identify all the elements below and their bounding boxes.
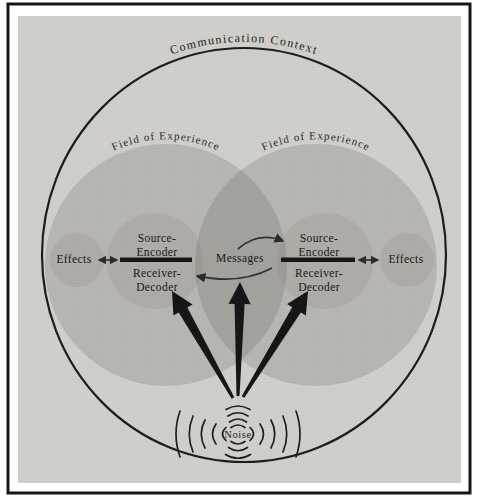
diagram-canvas: Communication Context Field of Experienc… [0,0,477,503]
right-receiver-label-line2: Decoder [298,281,340,293]
right-source-label-line2: Encoder [298,246,339,258]
right-source-label-line1: Source- [300,232,339,244]
left-source-label-line1: Source- [138,232,177,244]
right-divider-bar [281,258,355,263]
left-effects-label: Effects [56,253,91,265]
communication-model-figure: Communication Context Field of Experienc… [0,0,477,503]
left-receiver-label-line2: Decoder [136,281,178,293]
left-source-label-line2: Encoder [136,246,177,258]
left-receiver-label-line1: Receiver- [133,267,181,279]
right-receiver-label-line1: Receiver- [295,267,343,279]
left-divider-bar [120,258,192,263]
noise-label: Noise [224,429,252,440]
right-effects-label: Effects [388,253,423,265]
messages-label: Messages [216,252,264,265]
